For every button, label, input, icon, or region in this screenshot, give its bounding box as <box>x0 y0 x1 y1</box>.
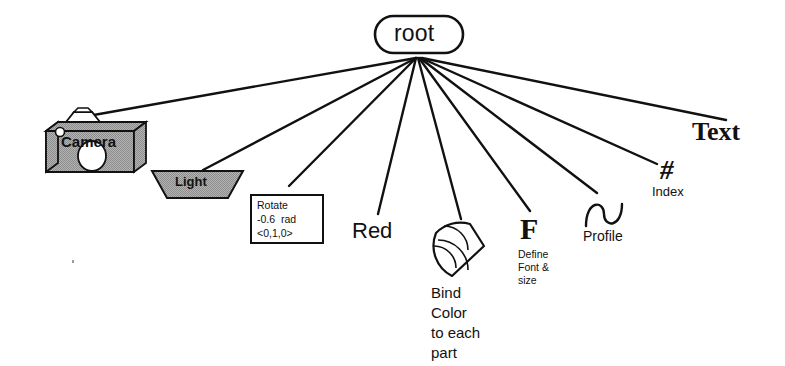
page-speck <box>72 260 74 263</box>
text-label: Text <box>692 117 740 146</box>
light-label: Light <box>175 175 207 190</box>
font-sub-line-2: Font & <box>518 261 549 275</box>
edge-root-red <box>378 58 416 214</box>
font-sub-line-3: size <box>518 274 537 288</box>
edge-root-bindcolor <box>418 58 461 219</box>
font-glyph-label: F <box>520 212 538 246</box>
edge-root-light <box>203 58 416 170</box>
bind-line-1: Bind <box>431 282 461 304</box>
rotate-line-2: -0.6 rad <box>257 213 296 227</box>
bind-line-4: part <box>431 342 457 364</box>
rotate-line-1: Rotate <box>257 199 288 213</box>
bind-line-3: to each <box>431 322 480 344</box>
bind-line-2: Color <box>431 302 467 324</box>
index-label: Index <box>652 185 684 200</box>
hash-glyph-label: # <box>660 155 674 185</box>
root-node-label: root <box>394 21 434 47</box>
sine-wave-icon <box>586 204 622 226</box>
profile-label: Profile <box>583 229 623 245</box>
diagram-canvas: root Camera Light Rotate -0.6 rad <0,1,0… <box>0 0 785 366</box>
font-sub-line-1: Define <box>518 248 548 262</box>
edge-root-text <box>422 58 726 120</box>
rotate-line-3: <0,1,0> <box>257 227 293 241</box>
camera-label: Camera <box>61 134 116 151</box>
red-label: Red <box>352 219 392 244</box>
fan-wedge-icon <box>434 223 484 276</box>
